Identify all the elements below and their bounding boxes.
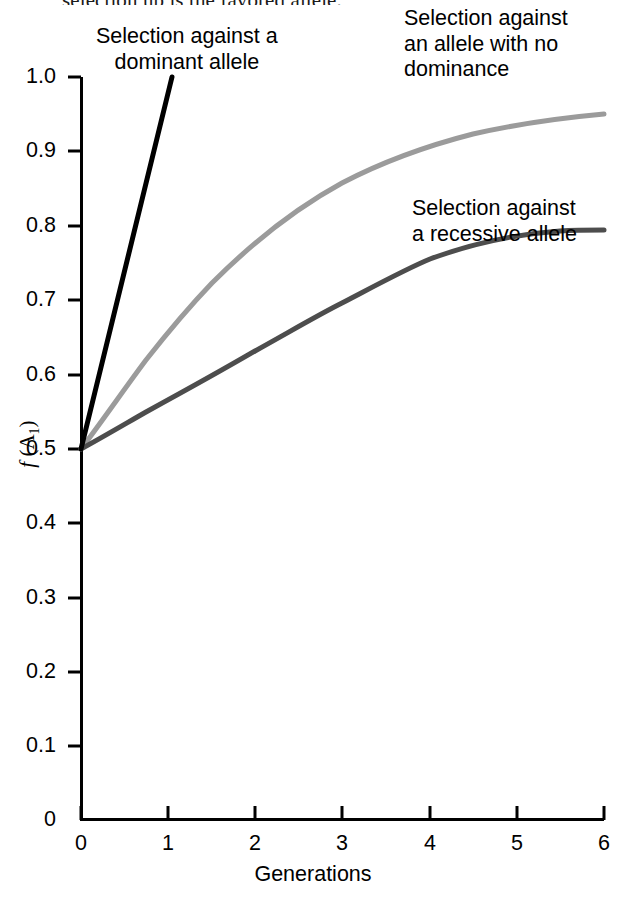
x-tick-marks <box>81 806 604 820</box>
annotation-selection-against-dominant-allele: Selection against a dominant allele <box>96 24 278 75</box>
y-tick-label-0.7: 0.7 <box>0 289 56 311</box>
y-tick-label-0.8: 0.8 <box>0 215 56 237</box>
x-tick-label-4: 4 <box>415 833 445 855</box>
x-tick-label-2: 2 <box>240 833 270 855</box>
chart-plot-area <box>0 0 626 898</box>
y-axis-title-subscript: 1 <box>27 428 42 435</box>
y-axis-title-f: f <box>15 462 39 468</box>
curve-no-dominance <box>81 114 604 449</box>
y-tick-label-1.0: 1.0 <box>0 66 56 88</box>
y-tick-label-0.9: 0.9 <box>0 140 56 162</box>
y-tick-label-0.2: 0.2 <box>0 661 56 683</box>
x-tick-label-3: 3 <box>327 833 357 855</box>
y-axis-title: f (A1) <box>15 399 43 489</box>
figure-container: selection up is the favored allele. <box>0 0 626 898</box>
annotation-selection-against-recessive-allele: Selection against a recessive allele <box>412 196 577 247</box>
y-tick-label-0.6: 0.6 <box>0 364 56 386</box>
x-tick-label-1: 1 <box>153 833 183 855</box>
y-tick-label-0.4: 0.4 <box>0 512 56 534</box>
y-tick-marks <box>68 77 81 746</box>
y-tick-label-0.3: 0.3 <box>0 587 56 609</box>
y-axis-title-close: ) <box>15 421 39 428</box>
y-tick-label-0: 0 <box>0 809 56 831</box>
annotation-selection-against-allele-no-dominance: Selection against an allele with no domi… <box>404 6 568 83</box>
x-tick-label-0: 0 <box>66 833 96 855</box>
y-tick-label-0.1: 0.1 <box>0 735 56 757</box>
x-tick-label-5: 5 <box>502 833 532 855</box>
x-tick-label-6: 6 <box>589 833 619 855</box>
x-axis-title: Generations <box>0 862 626 887</box>
y-axis-title-open: (A <box>15 434 39 461</box>
curve-dominant <box>81 77 172 449</box>
